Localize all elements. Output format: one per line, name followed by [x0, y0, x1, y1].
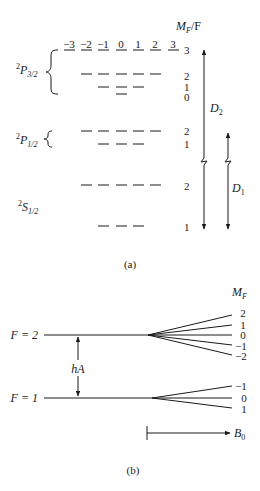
- f-value-0: 0: [184, 91, 190, 103]
- f-value-2: 2: [184, 180, 190, 192]
- d2-label: D2: [209, 101, 223, 117]
- brace-p32: [46, 50, 58, 94]
- d2-arrow: [201, 50, 207, 229]
- ha-label: hA: [71, 362, 85, 376]
- panel-b: MF F = 2 2 1 0 −1 −2 hA F = 1: [10, 285, 248, 477]
- f2-label: F = 2: [10, 328, 38, 342]
- panel-a: MF/F −3 −2 −1 0 1 2 3 2P3/2 3: [16, 19, 245, 271]
- f-value-1: 1: [184, 221, 190, 233]
- f2-mf-label: 2: [240, 307, 246, 319]
- mf-label: −2: [80, 38, 92, 50]
- d1-arrow: [225, 133, 231, 229]
- f-value-2: 2: [184, 125, 190, 137]
- b0-label: B0: [234, 426, 245, 442]
- mf-header-b: MF: [231, 285, 247, 301]
- brace-p12: [44, 131, 52, 147]
- term-p32: 2P3/2: [16, 62, 38, 79]
- mf-label: 3: [170, 38, 176, 50]
- f-value-3: 3: [184, 44, 190, 56]
- d1-label: D1: [231, 181, 245, 197]
- f-value-1: 1: [184, 138, 190, 150]
- f1-mf-label: 1: [241, 403, 247, 415]
- hyperfine-diagram: MF/F −3 −2 −1 0 1 2 3 2P3/2 3: [0, 0, 260, 491]
- f1-mf-label: −1: [235, 380, 247, 392]
- mf-f-header: MF/F: [175, 19, 201, 35]
- caption-b: (b): [127, 464, 140, 477]
- f2-mf-label: −2: [235, 350, 247, 362]
- mf-label: −3: [63, 38, 75, 50]
- f1-label: F = 1: [10, 391, 38, 405]
- mf-label: 0: [118, 38, 124, 50]
- b0-field-arrow: [147, 426, 230, 440]
- f1-zeeman-fan: [152, 386, 232, 408]
- term-p12: 2P1/2: [16, 132, 38, 149]
- f2-zeeman-fan: [148, 315, 232, 355]
- mf-label: −1: [97, 38, 109, 50]
- mf-label: 1: [135, 38, 141, 50]
- term-s12: 2S1/2: [18, 199, 38, 216]
- mf-labels: −3 −2 −1 0 1 2 3: [63, 38, 176, 50]
- mf-label: 2: [152, 38, 158, 50]
- caption-a: (a): [124, 258, 137, 271]
